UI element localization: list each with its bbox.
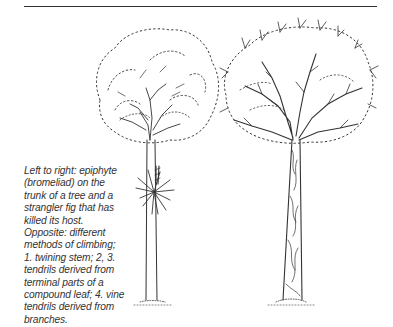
caption-line: trunk of a tree and a	[24, 190, 154, 202]
caption-line: strangler fig that has	[24, 202, 154, 214]
caption-line: methods of climbing;	[24, 239, 154, 251]
caption-line: tendrils derived from	[24, 301, 154, 313]
caption-line: tendrils derived from	[24, 264, 154, 276]
caption-line: killed its host.	[24, 215, 154, 227]
caption-line: Opposite: different	[24, 227, 154, 239]
caption-line: terminal parts of a	[24, 277, 154, 289]
caption-line: compound leaf; 4. vine	[24, 289, 154, 301]
figure-caption: Left to right: epiphyte (bromeliad) on t…	[24, 165, 154, 326]
caption-line: branches.	[24, 314, 154, 326]
right-tree	[220, 18, 378, 305]
caption-line: Left to right: epiphyte	[24, 165, 154, 177]
caption-line: (bromeliad) on the	[24, 177, 154, 189]
caption-line: 1. twining stem; 2, 3.	[24, 252, 154, 264]
